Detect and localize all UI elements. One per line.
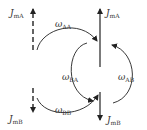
omega-ba-curve-arrow bbox=[71, 43, 93, 101]
label-j-ma-right: JmA bbox=[106, 9, 120, 19]
label-omega-bb: ωBB bbox=[55, 106, 71, 116]
diagram-graphics bbox=[0, 0, 147, 130]
label-j-mb-left: JmB bbox=[9, 115, 23, 125]
label-omega-ba: ωBA bbox=[62, 73, 78, 83]
label-j-ma-left: JmA bbox=[10, 9, 24, 19]
label-omega-ab: ωAB bbox=[118, 73, 134, 83]
label-j-mb-right: JmB bbox=[107, 116, 121, 126]
omega-aa-curve-arrow bbox=[37, 28, 97, 50]
transition-diagram: JmA JmA JmB JmB ωAA ωBA ωAB ωBB bbox=[0, 0, 147, 130]
label-omega-aa: ωAA bbox=[55, 20, 71, 30]
